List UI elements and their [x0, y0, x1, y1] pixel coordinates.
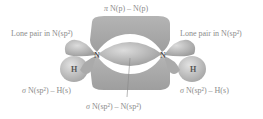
atom-h-right: H [190, 66, 196, 74]
label-pi-bond: π N(p) – N(p) [104, 4, 148, 13]
atom-n-left: N [94, 52, 100, 60]
label-sigma-nh-right: σ N(sp²) – H(s) [180, 86, 229, 95]
label-sigma-nn: σ N(sp²) – N(sp²) [86, 102, 141, 111]
label-sigma-nh-left: σ N(sp²) – H(s) [22, 86, 71, 95]
label-lone-pair-left: Lone pair in N(sp²) [11, 29, 73, 38]
atom-h-left: H [71, 66, 77, 74]
sigma-nn-lobe [98, 42, 162, 66]
atom-n-right: N [160, 52, 166, 60]
label-lone-pair-right: Lone pair in N(sp²) [180, 29, 242, 38]
